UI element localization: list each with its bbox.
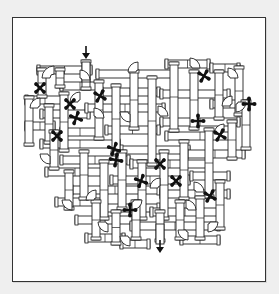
pipe-segment (179, 140, 189, 200)
pipe-segment (147, 76, 157, 166)
pipe-segment (79, 150, 89, 200)
pipe-segment (91, 200, 101, 240)
elbow-pipe (208, 222, 218, 232)
pipe-segment (129, 70, 139, 130)
entry-arrow-icon (82, 46, 90, 59)
elbow-pipe (186, 200, 196, 210)
elbow-pipe (40, 154, 50, 164)
elbow-pipe (120, 112, 130, 122)
pipe-segment (111, 210, 121, 245)
pipe-segment (55, 68, 65, 88)
pipe-segment (214, 70, 224, 120)
elbow-pipe (190, 58, 200, 68)
pipe-segment (169, 62, 179, 132)
elbow-pipe (194, 182, 204, 192)
pipe-segment (130, 221, 220, 231)
pipe-segment (99, 160, 109, 220)
pipe-segment (227, 120, 237, 160)
elbow-pipe (158, 106, 168, 116)
elbow-pipe (128, 62, 138, 72)
pipe-segment (195, 196, 205, 240)
pipe-maze-board (0, 0, 279, 294)
pipe-segment (204, 128, 214, 198)
elbow-pipe (62, 200, 72, 210)
pipe-segment (117, 150, 127, 210)
